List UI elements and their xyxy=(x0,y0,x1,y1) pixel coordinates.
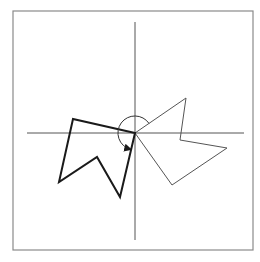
rotation-diagram xyxy=(0,0,260,262)
rotated-polygon xyxy=(59,119,135,197)
diagram-frame xyxy=(13,11,253,250)
original-polygon xyxy=(135,98,227,185)
